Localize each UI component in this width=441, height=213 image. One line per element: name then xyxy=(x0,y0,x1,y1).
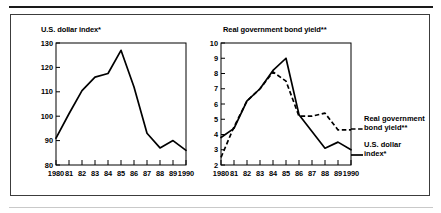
left-ytick-label-120: 120 xyxy=(41,63,53,72)
left-ytick-label-130: 130 xyxy=(41,39,53,48)
right-x-axis: 1980 81 82 83 84 85 86 87 88 89 1990 xyxy=(213,160,359,178)
left-ytick-label-100: 100 xyxy=(41,112,53,121)
chart-panel-box: U.S. dollar index* 80 90 100 xyxy=(10,14,430,196)
left-series-us-dollar-index xyxy=(56,50,186,150)
bottom-divider-rule xyxy=(9,207,433,208)
left-xtick-label-85: 85 xyxy=(117,169,125,178)
left-xtick-label-1980: 1980 xyxy=(48,169,64,178)
top-divider-rule xyxy=(9,6,433,8)
legend-connectors xyxy=(351,129,363,155)
left-chart-panel: U.S. dollar index* 80 90 100 xyxy=(11,15,201,197)
left-ytick-label-110: 110 xyxy=(41,87,53,96)
left-xtick-label-81: 81 xyxy=(65,169,73,178)
right-ytick-label-3: 3 xyxy=(214,145,218,154)
right-xtick-label-87: 87 xyxy=(308,169,316,178)
right-xtick-label-89: 89 xyxy=(334,169,342,178)
legend-dollar-index-line2: index* xyxy=(364,150,401,159)
right-chart-svg: 2 3 4 5 6 7 8 9 10 xyxy=(201,33,431,193)
right-ytick-label-6: 6 xyxy=(214,100,218,109)
right-ytick-label-4: 4 xyxy=(214,130,219,139)
left-y-axis: 80 90 100 110 120 130 xyxy=(41,39,60,170)
right-chart-panel: Real government bond yield** xyxy=(201,15,431,197)
right-xtick-label-83: 83 xyxy=(256,169,264,178)
right-xtick-label-86: 86 xyxy=(295,169,303,178)
left-xtick-label-84: 84 xyxy=(104,169,113,178)
right-xtick-label-84: 84 xyxy=(269,169,278,178)
right-xtick-label-1990: 1990 xyxy=(343,169,359,178)
right-xtick-label-1980: 1980 xyxy=(213,169,229,178)
legend-entry-dollar-index: U.S. dollar index* xyxy=(364,141,401,158)
left-xtick-label-82: 82 xyxy=(78,169,86,178)
left-xtick-label-89: 89 xyxy=(169,169,177,178)
left-xtick-label-1990: 1990 xyxy=(178,169,194,178)
right-xtick-label-88: 88 xyxy=(321,169,329,178)
right-ytick-label-9: 9 xyxy=(214,54,218,63)
legend-bond-yield-line2: bond yield** xyxy=(364,124,425,133)
right-y-axis: 2 3 4 5 6 7 8 9 10 xyxy=(210,39,225,170)
right-ytick-label-5: 5 xyxy=(214,115,218,124)
right-ytick-label-7: 7 xyxy=(214,84,218,93)
figure-container: U.S. dollar index* 80 90 100 xyxy=(0,0,441,213)
left-chart-svg: 80 90 100 110 120 130 xyxy=(11,33,201,193)
legend-entry-bond-yield: Real government bond yield** xyxy=(364,115,425,132)
right-series-us-dollar-index xyxy=(221,58,351,150)
left-xtick-label-86: 86 xyxy=(130,169,138,178)
left-xtick-label-83: 83 xyxy=(91,169,99,178)
right-ytick-label-10: 10 xyxy=(210,39,218,48)
left-xtick-label-87: 87 xyxy=(143,169,151,178)
right-xtick-label-85: 85 xyxy=(282,169,290,178)
right-ytick-label-8: 8 xyxy=(214,69,218,78)
left-plot-frame xyxy=(56,43,186,165)
right-xtick-label-81: 81 xyxy=(230,169,238,178)
left-x-axis: 1980 81 82 83 84 85 86 87 88 89 1990 xyxy=(48,160,194,178)
right-xtick-label-82: 82 xyxy=(243,169,251,178)
left-xtick-label-88: 88 xyxy=(156,169,164,178)
left-ytick-label-90: 90 xyxy=(45,136,53,145)
panels-row: U.S. dollar index* 80 90 100 xyxy=(11,15,431,197)
